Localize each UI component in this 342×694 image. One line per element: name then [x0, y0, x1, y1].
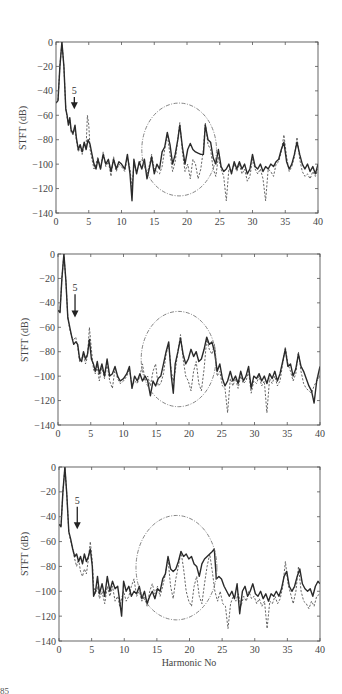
svg-text:Harmonic No: Harmonic No: [162, 657, 217, 668]
page-number-fragment: 85: [0, 684, 9, 694]
chart-panel-3: 505101520253035400−20−40−60−80−100−120−1…: [0, 0, 342, 694]
x-axis-label: Harmonic No: [0, 0, 342, 694]
